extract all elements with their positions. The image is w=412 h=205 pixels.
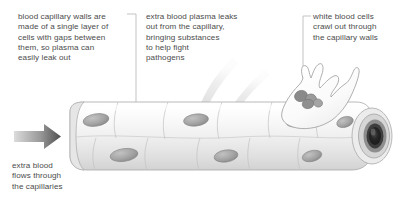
- annotation-blood-flow: extra blood flows through the capillarie…: [12, 161, 112, 192]
- capillary-diagram: blood capillary walls are made of a sing…: [0, 0, 412, 205]
- capillary-tube: [70, 102, 392, 170]
- annotation-plasma-leak: extra blood plasma leaks out from the ca…: [146, 12, 264, 63]
- annotation-capillary-walls: blood capillary walls are made of a sing…: [18, 12, 136, 63]
- blood-flow-arrow: [14, 124, 61, 149]
- capillary-lumen-opening: [352, 108, 392, 164]
- annotation-white-blood-cells: white blood cells crawl out through the …: [313, 12, 409, 43]
